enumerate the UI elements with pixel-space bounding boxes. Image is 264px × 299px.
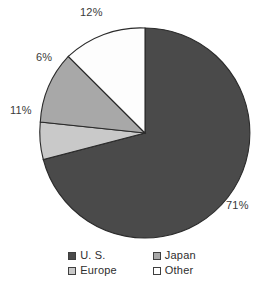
legend-swatch-icon-other xyxy=(153,267,161,275)
legend-item-japan[interactable]: Japan xyxy=(153,249,196,262)
pie-svg xyxy=(0,0,264,250)
slice-value-label-us: 71% xyxy=(226,199,249,211)
legend-item-us[interactable]: U. S. xyxy=(68,249,117,262)
legend-label-europe: Europe xyxy=(80,264,117,277)
legend-item-other[interactable]: Other xyxy=(153,264,196,277)
legend-cell: U. S. xyxy=(68,248,153,263)
legend-label-japan: Japan xyxy=(165,249,196,262)
legend-table: U. S. Japan Europe xyxy=(68,248,196,278)
legend-swatch-icon-japan xyxy=(153,252,161,260)
legend-label-other: Other xyxy=(165,264,194,277)
legend-row: U. S. Japan xyxy=(68,248,196,263)
slice-value-label-other: 12% xyxy=(80,6,103,18)
legend-cell: Other xyxy=(153,263,196,278)
slice-value-label-japan: 6% xyxy=(36,51,52,63)
legend-swatch-icon-europe xyxy=(68,267,76,275)
legend-swatch-icon-us xyxy=(68,252,76,260)
legend-cell: Japan xyxy=(153,248,196,263)
legend-row: Europe Other xyxy=(68,263,196,278)
pie-plot-area: 12% 6% 11% 71% xyxy=(0,0,264,250)
legend-item-europe[interactable]: Europe xyxy=(68,264,117,277)
legend-cell: Europe xyxy=(68,263,153,278)
slice-value-label-europe: 11% xyxy=(10,104,32,116)
chart-legend: U. S. Japan Europe xyxy=(0,248,264,294)
legend-label-us: U. S. xyxy=(80,249,105,262)
pie-chart: 12% 6% 11% 71% U. S. Japan xyxy=(0,0,264,299)
